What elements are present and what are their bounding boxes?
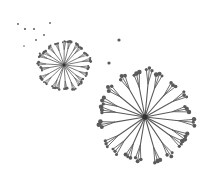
dandelion-drawing xyxy=(0,0,216,174)
small-dandelion xyxy=(36,40,92,91)
large-dandelion xyxy=(97,66,197,164)
dandelion-illustration xyxy=(0,0,216,174)
